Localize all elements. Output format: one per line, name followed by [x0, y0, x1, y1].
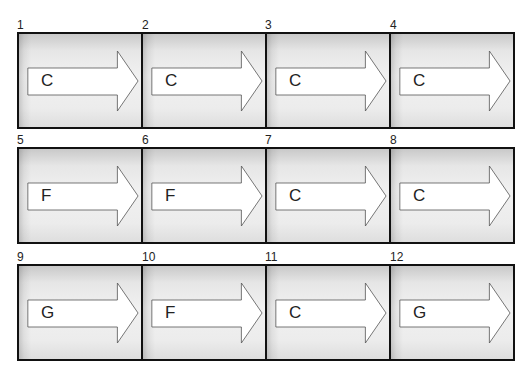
- measure-row-3: G F C G: [17, 264, 515, 361]
- right-arrow-icon: [143, 266, 265, 359]
- measure-number: 5: [17, 134, 24, 146]
- right-arrow-icon: [267, 149, 389, 242]
- chord-label: C: [413, 187, 425, 204]
- measure-number: 8: [390, 134, 397, 146]
- measure-number: 6: [142, 134, 149, 146]
- chord-label: C: [413, 72, 425, 89]
- right-arrow-icon: [19, 34, 141, 127]
- chord-label: C: [289, 187, 301, 204]
- chord-label: F: [41, 187, 51, 204]
- measure-row-2: F F C C: [17, 147, 515, 244]
- right-arrow-icon: [143, 34, 265, 127]
- measure-number: 3: [265, 19, 272, 31]
- measure-cell: G: [389, 266, 513, 359]
- right-arrow-icon: [19, 266, 141, 359]
- measure-number: 9: [17, 251, 24, 263]
- measure-number: 10: [142, 251, 155, 263]
- measure-number: 2: [142, 19, 149, 31]
- right-arrow-icon: [391, 149, 513, 242]
- measure-cell: C: [141, 34, 265, 127]
- measure-cell: C: [19, 34, 141, 127]
- measure-cell: F: [141, 149, 265, 242]
- right-arrow-icon: [391, 266, 513, 359]
- right-arrow-icon: [391, 34, 513, 127]
- chord-label: C: [165, 72, 177, 89]
- right-arrow-icon: [143, 149, 265, 242]
- measure-number: 11: [265, 251, 277, 263]
- chord-label: C: [289, 304, 301, 321]
- chord-label: F: [165, 187, 175, 204]
- measure-cell: C: [265, 149, 389, 242]
- measure-cell: G: [19, 266, 141, 359]
- measure-cell: C: [265, 266, 389, 359]
- measure-number: 1: [17, 19, 24, 31]
- measure-row-1: C C C C: [17, 32, 515, 129]
- chord-label: C: [289, 72, 301, 89]
- measure-number: 12: [390, 251, 403, 263]
- measure-cell: F: [19, 149, 141, 242]
- chord-label: F: [165, 304, 175, 321]
- chord-label: G: [41, 304, 54, 321]
- measure-cell: C: [265, 34, 389, 127]
- chord-label: C: [41, 72, 53, 89]
- measure-cell: F: [141, 266, 265, 359]
- right-arrow-icon: [19, 149, 141, 242]
- measure-cell: C: [389, 149, 513, 242]
- measure-number: 7: [265, 134, 272, 146]
- measure-cell: C: [389, 34, 513, 127]
- chord-label: G: [413, 304, 426, 321]
- right-arrow-icon: [267, 266, 389, 359]
- measure-number: 4: [390, 19, 397, 31]
- right-arrow-icon: [267, 34, 389, 127]
